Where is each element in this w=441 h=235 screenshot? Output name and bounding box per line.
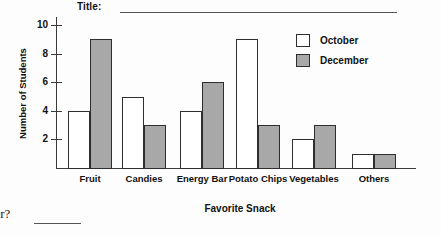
answer-blank-line[interactable] xyxy=(34,223,81,224)
white-square-icon xyxy=(296,34,310,47)
legend-label: December xyxy=(320,54,368,67)
bar-others-december xyxy=(374,154,396,170)
bar-fruit-october xyxy=(68,111,90,170)
bar-fruit-december xyxy=(90,39,112,169)
y-axis-tick-mark xyxy=(51,139,62,140)
y-axis-line xyxy=(56,17,57,169)
bar-vegetables-october xyxy=(292,139,314,169)
bar-energy-bar-october xyxy=(180,111,202,170)
bar-potato-chips-december xyxy=(258,125,280,169)
y-axis-tick-mark xyxy=(51,82,62,83)
bar-others-october xyxy=(352,154,374,170)
y-axis-tick-label: 4 xyxy=(26,106,48,116)
y-axis-tick-mark xyxy=(51,111,62,112)
y-axis-tick-label: 10 xyxy=(26,20,48,30)
x-axis-label-vegetables: Vegetables xyxy=(280,173,348,184)
worksheet-bar-chart-page: Title: Number of Students 246810 FruitCa… xyxy=(0,0,441,235)
legend-item-december[interactable]: December xyxy=(296,53,406,70)
bar-candies-december xyxy=(144,125,166,169)
y-axis-tick-mark xyxy=(51,25,62,26)
question-text-fragment: ber? xyxy=(0,206,10,222)
bar-candies-october xyxy=(122,97,144,170)
bar-energy-bar-december xyxy=(202,82,224,169)
legend-label: October xyxy=(320,34,358,47)
gray-square-icon xyxy=(296,54,310,67)
y-axis-tick-label: 6 xyxy=(26,77,48,87)
chart-legend: OctoberDecember xyxy=(296,33,406,73)
bar-potato-chips-october xyxy=(236,39,258,169)
legend-item-october[interactable]: October xyxy=(296,33,406,50)
x-axis-label-others: Others xyxy=(340,173,408,184)
y-axis-tick-mark xyxy=(51,54,62,55)
y-axis-tick-label: 8 xyxy=(26,49,48,59)
x-axis-title: Favorite Snack xyxy=(140,203,340,214)
bar-vegetables-december xyxy=(314,125,336,169)
y-axis-tick-label: 2 xyxy=(26,134,48,144)
